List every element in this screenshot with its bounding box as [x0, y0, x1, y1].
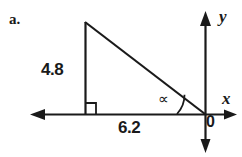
x-axis-left-arrowhead	[30, 109, 45, 120]
triangle-hypotenuse	[85, 22, 205, 114]
x-axis-right-arrowhead	[224, 110, 237, 120]
vertical-leg-length-label: 4.8	[41, 61, 63, 78]
angle-alpha-label: ∝	[158, 92, 169, 107]
x-axis-label: x	[222, 90, 231, 107]
figure-container: a. 4.8 6.2 0 x y ∝	[0, 0, 242, 157]
right-angle-marker-icon	[86, 103, 97, 114]
y-axis-top-arrowhead	[200, 11, 211, 26]
y-axis-label: y	[219, 8, 227, 25]
y-axis-bottom-arrowhead	[201, 139, 211, 153]
horizontal-leg-length-label: 6.2	[118, 119, 140, 136]
origin-label: 0	[206, 114, 215, 130]
problem-label: a.	[9, 12, 20, 27]
